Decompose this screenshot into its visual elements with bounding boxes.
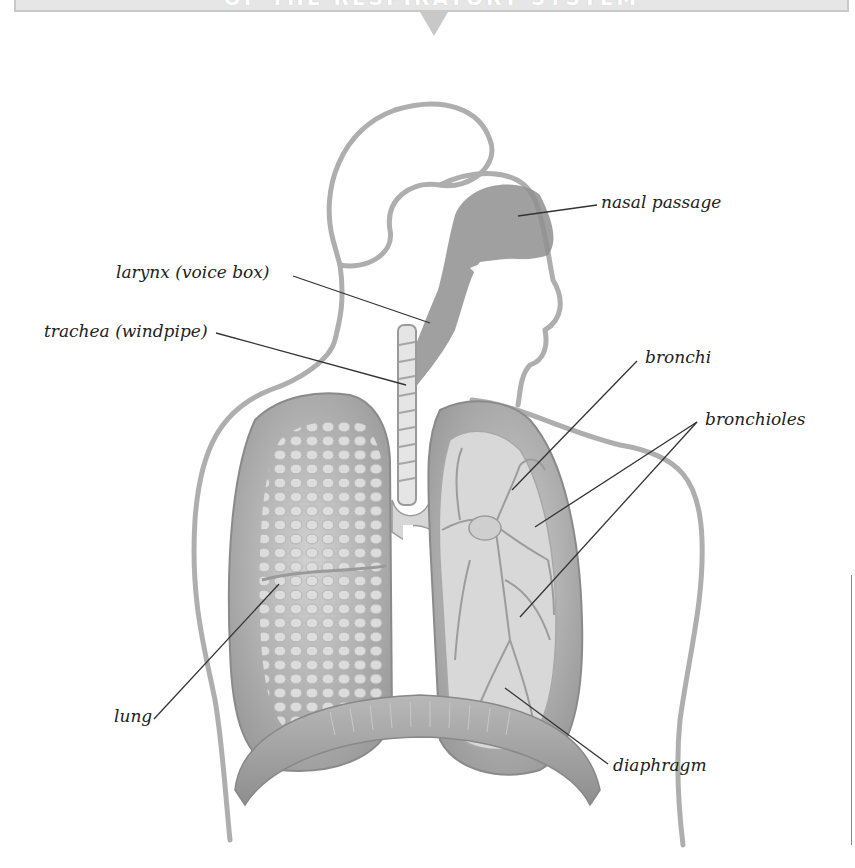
page-edge-rule (851, 575, 852, 845)
label-lung: lung (114, 706, 152, 726)
label-bronchi: bronchi (645, 347, 711, 367)
label-bronchioles: bronchioles (705, 409, 806, 429)
label-diaphragm: diaphragm (613, 755, 707, 775)
label-larynx: larynx (voice box) (116, 262, 269, 282)
respiratory-illustration (0, 0, 855, 868)
label-nasal-passage: nasal passage (601, 192, 721, 212)
label-trachea: trachea (windpipe) (44, 321, 208, 341)
